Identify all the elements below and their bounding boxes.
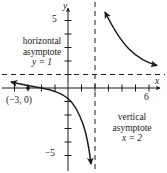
x-intercept-label: (−3, 0) <box>6 95 32 106</box>
horizontal-asymptote-line1: horizontal <box>6 36 78 47</box>
x-tick-label-6: 6 <box>144 92 149 103</box>
horizontal-asymptote-label: horizontal asymptote y = 1 <box>6 36 78 68</box>
graph-canvas <box>0 0 167 173</box>
y-tick-label-minus-5: −5 <box>45 148 55 159</box>
y-tick-label-5: 5 <box>52 14 57 25</box>
x-intercept-marker <box>26 86 30 90</box>
curve-right-branch <box>105 12 157 66</box>
vertical-asymptote-label: vertical asymptote x = 2 <box>101 112 163 144</box>
horizontal-asymptote-line2: asymptote <box>6 47 78 58</box>
horizontal-asymptote-equation: y = 1 <box>6 57 78 68</box>
vertical-asymptote-equation: x = 2 <box>101 133 163 144</box>
y-axis-label: y <box>63 1 67 12</box>
x-axis-label: x <box>155 76 159 87</box>
vertical-asymptote-line1: vertical <box>101 112 163 123</box>
y-axis <box>65 8 72 171</box>
rational-function-figure: x y 5 −5 6 horizontal asymptote y = 1 ve… <box>0 0 167 173</box>
vertical-asymptote-line2: asymptote <box>101 123 163 134</box>
